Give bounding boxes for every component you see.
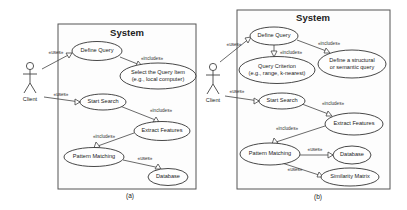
usecase-define-query-b: Define Query: [250, 27, 298, 45]
caption-b: (b): [314, 193, 322, 201]
caption-a: (a): [126, 192, 134, 200]
label-includes-3a: «includes»: [93, 134, 115, 139]
usecase-start-search-b: Start Search: [259, 93, 305, 109]
usecase-database-a: Database: [148, 169, 188, 186]
svg-text:Start Search: Start Search: [87, 98, 118, 104]
svg-text:Query Criterion: Query Criterion: [258, 63, 296, 69]
svg-text:Database: Database: [340, 151, 364, 157]
usecase-pattern-matching-a: Pattern Matching: [64, 148, 124, 167]
diagram-a: System Client «uses» «includes» «uses» «…: [23, 24, 196, 200]
label-uses-2b: «uses»: [230, 89, 245, 94]
label-includes-4b: «includes»: [276, 126, 298, 131]
actor-label-b: Client: [206, 97, 221, 103]
svg-text:(e.g., local computer): (e.g., local computer): [132, 76, 185, 82]
label-includes-2a: «includes»: [150, 108, 172, 113]
usecase-extract-features-b: Extract Features: [325, 113, 383, 135]
usecase-database-b: Database: [333, 146, 371, 164]
actor-client-b: Client: [206, 63, 221, 103]
label-uses-1b: «uses»: [227, 42, 242, 47]
svg-text:Define Query: Define Query: [258, 32, 291, 38]
actor-head-icon: [26, 62, 33, 69]
label-uses-4b: «uses»: [288, 167, 303, 172]
svg-text:Extract Features: Extract Features: [141, 127, 182, 133]
label-uses-3a: «uses»: [138, 156, 153, 161]
svg-text:Database: Database: [156, 173, 180, 179]
usecase-query-criterion-b: Query Criterion (e.g., range, k-nearest): [239, 57, 315, 84]
usecase-start-search-a: Start Search: [80, 94, 126, 110]
actor-label-a: Client: [23, 96, 38, 102]
label-includes-2b: «includes»: [318, 41, 340, 46]
usecase-select-query-item-a: Select the Query Item (e.g., local compu…: [120, 63, 196, 89]
label-uses-3b: «uses»: [308, 147, 323, 152]
svg-text:(e.g., range, k-nearest): (e.g., range, k-nearest): [249, 70, 306, 76]
svg-text:Pattern Matching: Pattern Matching: [73, 153, 115, 159]
label-includes-1b: «includes»: [280, 50, 302, 55]
usecase-similarity-matrix-b: Similarity Matrix: [321, 168, 379, 186]
label-uses-2a: «uses»: [54, 92, 69, 97]
label-includes-1a: «includes»: [141, 56, 163, 61]
label-uses-1a: «uses»: [49, 50, 64, 55]
system-title-b: System: [296, 12, 330, 23]
svg-text:Pattern Matching: Pattern Matching: [249, 150, 291, 156]
usecase-pattern-matching-b: Pattern Matching: [240, 143, 300, 165]
svg-text:Define a structural: Define a structural: [329, 57, 374, 63]
svg-text:Extract Features: Extract Features: [333, 120, 374, 126]
actor-head-icon: [209, 63, 216, 70]
system-title-a: System: [110, 27, 144, 38]
diagram-b: System Client «uses» «includes» «include…: [206, 10, 390, 201]
usecase-extract-features-a: Extract Features: [134, 122, 190, 141]
svg-text:or semantic query: or semantic query: [330, 64, 375, 70]
svg-text:Start Search: Start Search: [266, 97, 297, 103]
svg-text:Define Query: Define Query: [81, 47, 114, 53]
actor-client-a: Client: [23, 62, 38, 102]
svg-text:Similarity Matrix: Similarity Matrix: [330, 173, 370, 179]
usecase-structural-query-b: Define a structural or semantic query: [318, 50, 386, 78]
use-case-diagrams: System Client «uses» «includes» «uses» «…: [0, 0, 407, 210]
svg-text:Select the Query Item: Select the Query Item: [131, 69, 185, 75]
label-includes-3b: «includes»: [322, 101, 344, 106]
usecase-define-query-a: Define Query: [72, 42, 122, 61]
